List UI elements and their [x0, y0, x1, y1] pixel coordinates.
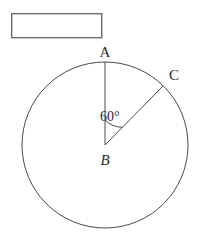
label-point-a: A — [100, 44, 111, 60]
label-point-b: B — [100, 152, 109, 168]
label-central-angle: 60° — [100, 109, 120, 124]
label-point-c: C — [169, 67, 179, 83]
geometry-figure: A B C 60° — [0, 0, 199, 242]
answer-box[interactable] — [12, 14, 102, 38]
figure-canvas: A B C 60° — [0, 0, 199, 242]
